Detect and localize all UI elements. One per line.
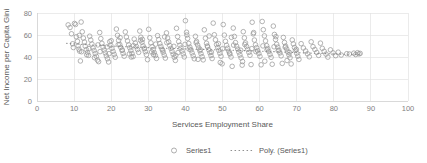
data-point-marker bbox=[238, 53, 243, 58]
data-point-marker bbox=[274, 42, 279, 47]
data-point-marker bbox=[289, 62, 294, 67]
data-point-marker bbox=[328, 48, 333, 53]
data-point-marker bbox=[280, 61, 285, 66]
legend-item-label-poly: Poly. (Series1) bbox=[259, 146, 308, 155]
data-point-marker bbox=[235, 47, 240, 52]
data-point-marker bbox=[299, 41, 304, 46]
chart-canvas: 020406080 0102030405060708090100 Service… bbox=[0, 0, 427, 163]
x-tick-label: 0 bbox=[35, 104, 39, 113]
legend-item-label-series1: Series1 bbox=[186, 146, 211, 155]
data-point-marker bbox=[263, 39, 268, 44]
data-point-marker bbox=[170, 49, 175, 54]
data-point-marker bbox=[110, 46, 115, 51]
data-point-marker bbox=[179, 46, 184, 51]
data-point-marker bbox=[92, 48, 97, 53]
data-point-marker bbox=[207, 34, 212, 39]
x-tick-label: 70 bbox=[293, 104, 301, 113]
data-point-marker bbox=[97, 30, 102, 35]
data-point-marker bbox=[98, 49, 103, 54]
y-tick-label: 20 bbox=[24, 75, 32, 84]
data-point-marker bbox=[285, 58, 290, 63]
data-point-marker bbox=[249, 62, 254, 67]
chart-legend: Series1 Poly. (Series1) bbox=[172, 146, 309, 155]
data-point-marker bbox=[260, 19, 265, 24]
data-point-marker bbox=[258, 54, 263, 59]
data-point-marker bbox=[123, 30, 128, 35]
data-point-marker bbox=[339, 53, 344, 58]
data-point-marker bbox=[211, 21, 216, 26]
data-point-marker bbox=[279, 54, 284, 59]
x-axis-tick-labels: 0102030405060708090100 bbox=[35, 104, 414, 113]
data-point-marker bbox=[93, 51, 98, 56]
y-tick-label: 40 bbox=[24, 53, 32, 62]
x-tick-label: 60 bbox=[255, 104, 263, 113]
data-point-marker bbox=[262, 59, 267, 64]
data-point-marker bbox=[191, 53, 196, 58]
data-point-marker bbox=[99, 36, 104, 41]
data-point-marker bbox=[262, 34, 267, 39]
data-point-marker bbox=[75, 39, 80, 44]
data-point-marker bbox=[136, 50, 141, 55]
data-point-marker bbox=[261, 27, 266, 32]
x-tick-label: 20 bbox=[107, 104, 115, 113]
data-point-marker bbox=[229, 35, 234, 40]
x-tick-label: 100 bbox=[402, 104, 415, 113]
y-tick-label: 0 bbox=[28, 97, 32, 106]
data-point-marker bbox=[271, 24, 276, 29]
data-point-marker bbox=[309, 40, 314, 45]
data-point-marker bbox=[253, 42, 258, 47]
y-tick-label: 80 bbox=[24, 9, 32, 18]
data-point-marker bbox=[135, 47, 140, 52]
x-tick-label: 80 bbox=[330, 104, 338, 113]
data-point-marker bbox=[145, 57, 150, 62]
x-tick-label: 50 bbox=[218, 104, 226, 113]
data-point-marker bbox=[218, 51, 223, 56]
y-axis-title: Net Income per Capita Gini bbox=[2, 9, 11, 106]
data-point-marker bbox=[96, 59, 101, 64]
data-markers-group bbox=[66, 18, 363, 68]
data-point-marker bbox=[112, 52, 117, 57]
x-axis-title: Services Employment Share bbox=[172, 120, 273, 129]
data-point-marker bbox=[241, 29, 246, 34]
y-axis-tick-labels: 020406080 bbox=[24, 9, 32, 106]
data-point-marker bbox=[78, 59, 83, 64]
data-point-marker bbox=[79, 20, 84, 25]
legend-circle-icon bbox=[172, 148, 177, 153]
x-tick-label: 10 bbox=[70, 104, 78, 113]
data-point-marker bbox=[137, 29, 142, 34]
data-point-marker bbox=[122, 54, 127, 59]
data-point-marker bbox=[174, 26, 179, 31]
x-tick-label: 40 bbox=[181, 104, 189, 113]
data-point-marker bbox=[242, 36, 247, 41]
x-tick-label: 30 bbox=[144, 104, 152, 113]
scatter-chart: 020406080 0102030405060708090100 Service… bbox=[0, 0, 427, 163]
data-point-marker bbox=[114, 27, 119, 32]
data-point-marker bbox=[230, 64, 235, 69]
data-point-marker bbox=[270, 62, 275, 67]
data-point-marker bbox=[181, 52, 186, 57]
x-tick-label: 90 bbox=[367, 104, 375, 113]
y-tick-label: 60 bbox=[24, 31, 32, 40]
data-point-marker bbox=[69, 31, 74, 36]
data-point-marker bbox=[231, 26, 236, 31]
data-point-marker bbox=[268, 52, 273, 57]
data-point-marker bbox=[318, 41, 323, 46]
data-point-marker bbox=[252, 38, 257, 43]
data-point-marker bbox=[202, 28, 207, 33]
data-point-marker bbox=[250, 20, 255, 25]
data-point-marker bbox=[77, 33, 82, 38]
data-point-marker bbox=[163, 56, 168, 61]
data-point-marker bbox=[281, 35, 286, 40]
data-point-marker bbox=[288, 55, 293, 60]
data-point-marker bbox=[224, 43, 229, 48]
data-point-marker bbox=[221, 22, 226, 27]
data-point-marker bbox=[146, 27, 151, 32]
